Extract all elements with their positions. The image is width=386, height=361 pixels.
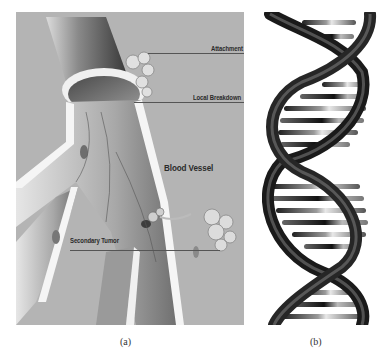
blood-vessel-illustration: Attachment Local Breakdown Blood Vessel … bbox=[16, 12, 244, 325]
label-local-breakdown: Local Breakdown bbox=[193, 94, 241, 101]
label-secondary-tumor: Secondary Tumor bbox=[70, 237, 119, 244]
label-blood-vessel: Blood Vessel bbox=[164, 162, 213, 173]
leader-line-attachment bbox=[148, 53, 244, 54]
dna-double-helix-illustration bbox=[262, 12, 378, 325]
label-attachment: Attachment bbox=[211, 45, 243, 52]
caption-panel-b: (b) bbox=[310, 336, 322, 347]
caption-panel-a: (a) bbox=[120, 336, 131, 347]
dna-helix-drawing bbox=[262, 12, 378, 325]
leader-line-local-breakdown bbox=[134, 102, 244, 103]
leader-line-secondary-tumor bbox=[70, 250, 220, 251]
